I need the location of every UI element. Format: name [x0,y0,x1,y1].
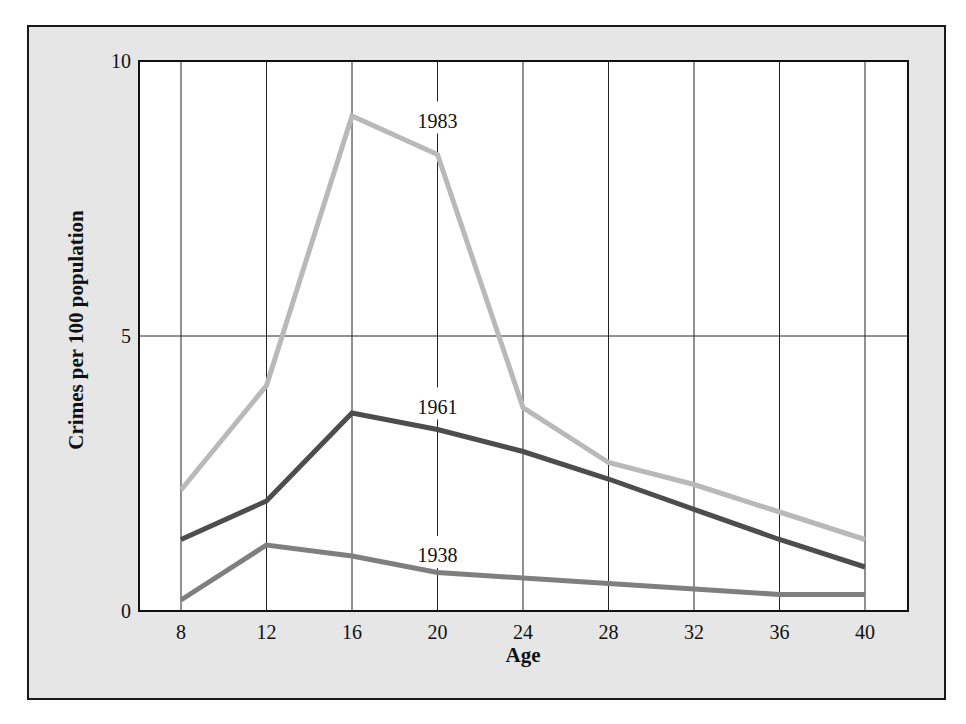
x-tick-label: 12 [257,621,277,643]
line-chart: 198319611938 81216202428323640 0510 Age … [0,0,966,724]
x-tick-label: 28 [599,621,619,643]
x-tick-label: 36 [770,621,790,643]
series-label-1961: 1961 [418,396,458,418]
y-tick-label: 5 [121,325,131,347]
y-tick-label: 0 [121,600,131,622]
x-tick-label: 40 [855,621,875,643]
x-axis-title: Age [506,643,541,667]
series-label-1938: 1938 [418,544,458,566]
x-axis-ticks: 81216202428323640 [176,621,875,643]
x-tick-label: 32 [684,621,704,643]
x-tick-label: 16 [342,621,362,643]
y-axis-ticks: 0510 [111,50,131,622]
y-tick-label: 10 [111,50,131,72]
y-axis-title: Crimes per 100 population [64,210,88,450]
x-tick-label: 24 [513,621,533,643]
x-tick-label: 8 [176,621,186,643]
series-label-1983: 1983 [418,110,458,132]
x-tick-label: 20 [428,621,448,643]
